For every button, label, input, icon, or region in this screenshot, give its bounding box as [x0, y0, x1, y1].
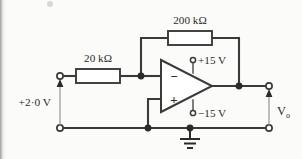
positive-supply-label: +15 V [198, 54, 226, 66]
feedback-resistor-label: 200 kΩ [173, 14, 207, 26]
input-voltage-arrow [57, 79, 64, 126]
wire-noninverting-to-ground-rail [148, 99, 161, 128]
negative-supply-label: −15 V [198, 107, 226, 119]
opamp-noninverting-input-sign: + [170, 92, 177, 107]
input-resistor-label: 20 kΩ [84, 52, 112, 64]
opamp-inverting-input-sign: − [170, 69, 177, 84]
output-voltage-arrow [266, 89, 273, 126]
inverting-input-node-dot [138, 73, 145, 80]
output-voltage-symbol: V [277, 104, 286, 118]
positive-supply-terminal [190, 57, 195, 62]
ground-symbol [180, 139, 200, 148]
opamp-triangle [161, 60, 212, 112]
input-resistor-body [76, 69, 120, 83]
output-terminal-top [266, 83, 272, 89]
circuit-diagram-figure: 20 kΩ 200 kΩ − + +15 V −15 V [0, 0, 302, 159]
input-terminal-top [57, 73, 63, 79]
ground-node-dot [187, 125, 194, 132]
output-voltage-subscript: o [286, 111, 290, 120]
noninverting-rail-node-dot [145, 125, 152, 132]
negative-supply-terminal [190, 110, 195, 115]
feedback-resistor-body [168, 31, 212, 45]
input-voltage-label: +2·0 V [19, 96, 52, 108]
circuit-schematic: 20 kΩ 200 kΩ − + +15 V −15 V [0, 0, 302, 159]
output-voltage-label: Vo [277, 104, 290, 120]
output-node-dot [236, 83, 243, 90]
